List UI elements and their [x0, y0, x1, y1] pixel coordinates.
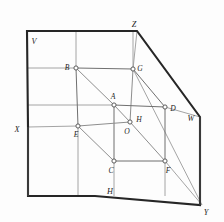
cube-edge-O-F	[130, 122, 165, 161]
cube-edges-group	[76, 68, 165, 161]
cube-edge-E-C	[78, 126, 114, 161]
vertex-label-G: G	[137, 64, 143, 73]
vertex-D-dot	[163, 105, 167, 109]
figure-canvas: B G A D E O H C F V Z W X H Y	[0, 0, 224, 222]
corner-label-W: W	[188, 114, 196, 123]
vertex-label-H-cube: H	[135, 115, 142, 124]
vertex-E-dot	[76, 124, 80, 128]
vertex-O-dot	[128, 120, 132, 124]
vertex-A-dot	[112, 103, 116, 107]
vertex-label-E: E	[73, 130, 79, 139]
plane-corner-labels-group: V Z W X H Y	[13, 20, 209, 217]
cube-edge-B-E	[76, 68, 78, 126]
vertex-label-D: D	[169, 104, 176, 113]
vertex-G-dot	[131, 67, 135, 71]
vertex-C-dot	[112, 159, 116, 163]
vertex-label-A: A	[110, 92, 116, 101]
cube-edge-B-A	[76, 68, 114, 105]
corner-label-H: H	[106, 187, 114, 196]
corner-label-Z: Z	[132, 20, 137, 29]
cube-edge-A-O	[114, 105, 130, 122]
vertex-label-O: O	[124, 127, 130, 136]
projection-rays-group	[28, 31, 202, 205]
cube-vertices-group	[74, 66, 167, 163]
corner-label-V: V	[31, 37, 37, 46]
cube-edge-A-D	[114, 105, 165, 107]
cube-edge-E-O	[78, 122, 130, 126]
vertex-F-dot	[163, 159, 167, 163]
vertex-label-B: B	[65, 63, 70, 72]
axonometric-cube-figure: B G A D E O H C F V Z W X H Y	[0, 0, 224, 222]
ray-X-to-E-line	[28, 126, 78, 127]
cube-edge-G-O	[130, 69, 133, 122]
corner-label-Y: Y	[204, 208, 210, 217]
corner-label-X: X	[13, 125, 20, 134]
cube-vertex-labels-group: B G A D E O H C F	[65, 63, 177, 175]
vertex-label-F: F	[165, 166, 171, 175]
vertex-B-dot	[74, 66, 78, 70]
cube-edge-B-G	[76, 68, 133, 69]
